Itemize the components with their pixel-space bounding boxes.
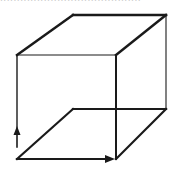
up-arrow-icon bbox=[14, 126, 21, 135]
cube-edges bbox=[17, 15, 166, 159]
top-right-edge bbox=[116, 15, 166, 55]
bottom-right-edge bbox=[116, 109, 166, 159]
cube-diagram bbox=[0, 0, 182, 174]
arrows bbox=[14, 126, 116, 163]
right-arrow-icon bbox=[105, 155, 115, 163]
bottom-left-edge bbox=[17, 109, 73, 159]
top-left-edge bbox=[17, 15, 73, 55]
